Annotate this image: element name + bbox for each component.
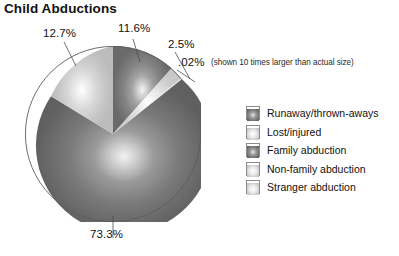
legend-swatch-icon <box>246 162 260 176</box>
legend-label: Lost/injured <box>267 127 321 138</box>
chart-figure: Child Abductions <box>0 0 399 256</box>
value-label-family-abduction: 11.6% <box>118 22 150 34</box>
legend-item-stranger-abduction: Stranger abduction <box>246 178 396 197</box>
legend-swatch-icon <box>246 106 260 120</box>
value-label-stranger-abduction: .02% <box>178 56 205 68</box>
legend-label: Family abduction <box>267 145 346 156</box>
pie-chart <box>25 46 201 222</box>
value-label-runaway-thrown-aways: 73.3% <box>90 228 123 240</box>
pie-chart-svg <box>25 46 201 222</box>
legend-swatch-icon <box>246 125 260 139</box>
legend-item-non-family-abduction: Non-family abduction <box>246 160 396 179</box>
legend-item-family-abduction: Family abduction <box>246 141 396 160</box>
value-label-lost-injured: 12.7% <box>43 27 76 39</box>
legend-label: Runaway/thrown-aways <box>267 108 378 119</box>
page-title: Child Abductions <box>4 1 117 16</box>
value-label-non-family-abduction: 2.5% <box>168 38 195 50</box>
chart-legend: Runaway/thrown-aways Lost/injured Family… <box>246 104 396 197</box>
stranger-abduction-note: (shown 10 times larger than actual size) <box>211 58 354 67</box>
legend-label: Non-family abduction <box>267 164 366 175</box>
legend-label: Stranger abduction <box>267 182 356 193</box>
legend-swatch-icon <box>246 143 260 157</box>
legend-item-runaway-thrown-aways: Runaway/thrown-aways <box>246 104 396 123</box>
legend-item-lost-injured: Lost/injured <box>246 123 396 142</box>
legend-swatch-icon <box>246 180 260 194</box>
